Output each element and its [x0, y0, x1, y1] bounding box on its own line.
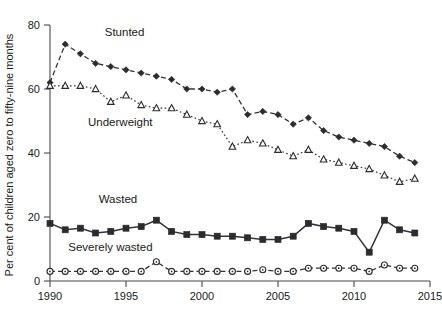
series-annotation-label: Underweight — [88, 116, 153, 128]
data-point-circle-center — [338, 267, 340, 269]
data-point-marker — [184, 232, 190, 238]
data-point-marker — [336, 225, 342, 231]
data-point-circle-center — [216, 271, 218, 273]
data-point-circle-center — [277, 271, 279, 273]
data-point-marker — [214, 233, 220, 239]
data-point-marker — [123, 92, 130, 98]
series-annotation-label: Severely wasted — [68, 241, 152, 253]
x-tick-label: 1990 — [38, 290, 62, 302]
data-point-marker — [381, 217, 387, 223]
x-tick-label: 2005 — [266, 290, 290, 302]
data-point-marker — [229, 233, 235, 239]
series-line — [50, 86, 415, 182]
data-point-marker — [153, 217, 159, 223]
data-point-marker — [305, 115, 311, 121]
nutrition-trends-line-chart: Per cent of children aged zero to fifty-… — [0, 0, 442, 310]
data-point-circle-center — [399, 267, 401, 269]
data-point-marker — [214, 89, 220, 95]
chart-series-layer — [47, 41, 418, 274]
series-underweight — [47, 82, 418, 184]
data-point-marker — [412, 230, 418, 236]
data-point-marker — [199, 232, 205, 238]
data-point-circle-center — [201, 271, 203, 273]
series-severely-wasted — [47, 259, 418, 275]
data-point-circle-center — [232, 271, 234, 273]
data-point-circle-center — [308, 267, 310, 269]
data-point-marker — [47, 220, 53, 226]
data-point-marker — [305, 146, 312, 152]
x-tick-label: 1995 — [114, 290, 138, 302]
data-point-circle-center — [353, 267, 355, 269]
chart-annotations-layer: StuntedUnderweightWastedSeverely wasted — [68, 26, 153, 252]
data-point-marker — [275, 236, 281, 242]
x-axis-ticks: 199019952000200520102015 — [38, 281, 442, 302]
data-point-circle-center — [384, 264, 386, 266]
data-point-circle-center — [110, 271, 112, 273]
data-point-marker — [381, 172, 388, 178]
data-point-marker — [123, 225, 129, 231]
data-point-marker — [290, 233, 296, 239]
series-annotation-label: Stunted — [105, 26, 145, 38]
data-point-marker — [351, 162, 358, 168]
data-point-circle-center — [368, 271, 370, 273]
data-point-marker — [138, 70, 144, 76]
data-point-marker — [245, 112, 251, 118]
data-point-marker — [77, 225, 83, 231]
chart-container: Per cent of children aged zero to fifty-… — [0, 0, 442, 310]
series-annotation-label: Wasted — [99, 193, 138, 205]
data-point-circle-center — [64, 271, 66, 273]
data-point-circle-center — [171, 271, 173, 273]
data-point-marker — [199, 86, 205, 92]
data-point-marker — [62, 41, 68, 47]
data-point-marker — [199, 117, 206, 123]
data-point-marker — [336, 134, 342, 140]
data-point-marker — [351, 137, 357, 143]
data-point-circle-center — [292, 271, 294, 273]
data-point-marker — [320, 156, 327, 162]
data-point-marker — [229, 86, 235, 92]
data-point-marker — [305, 220, 311, 226]
data-point-marker — [92, 85, 99, 91]
data-point-marker — [244, 137, 251, 143]
data-point-marker — [93, 60, 99, 66]
data-point-marker — [321, 224, 327, 230]
data-point-marker — [366, 165, 373, 171]
data-point-marker — [260, 236, 266, 242]
data-point-marker — [153, 73, 159, 79]
data-point-circle-center — [186, 271, 188, 273]
data-point-circle-center — [414, 267, 416, 269]
data-point-marker — [123, 67, 129, 73]
data-point-marker — [366, 249, 372, 255]
x-tick-label: 2010 — [342, 290, 366, 302]
data-point-circle-center — [323, 267, 325, 269]
data-point-marker — [169, 228, 175, 234]
data-point-circle-center — [80, 271, 82, 273]
y-tick-label: 80 — [28, 19, 40, 31]
y-tick-label: 60 — [28, 83, 40, 95]
data-point-marker — [184, 86, 190, 92]
x-tick-label: 2000 — [190, 290, 214, 302]
data-point-circle-center — [156, 261, 158, 263]
data-point-circle-center — [49, 271, 51, 273]
y-axis-title: Per cent of children aged zero to fifty-… — [3, 33, 15, 276]
data-point-marker — [245, 235, 251, 241]
data-point-circle-center — [140, 271, 142, 273]
data-point-marker — [335, 159, 342, 165]
data-point-marker — [62, 227, 68, 233]
data-point-marker — [77, 51, 83, 57]
data-point-marker — [169, 76, 175, 82]
data-point-marker — [381, 144, 387, 150]
y-tick-label: 20 — [28, 211, 40, 223]
y-tick-label: 40 — [28, 147, 40, 159]
data-point-marker — [260, 108, 266, 114]
data-point-marker — [275, 112, 281, 118]
data-point-marker — [138, 101, 145, 107]
data-point-marker — [366, 140, 372, 146]
data-point-marker — [93, 230, 99, 236]
y-tick-label: 0 — [34, 275, 40, 287]
data-point-marker — [411, 175, 418, 181]
data-point-circle-center — [247, 271, 249, 273]
data-point-marker — [397, 227, 403, 233]
data-point-marker — [412, 160, 418, 166]
data-point-circle-center — [125, 271, 127, 273]
